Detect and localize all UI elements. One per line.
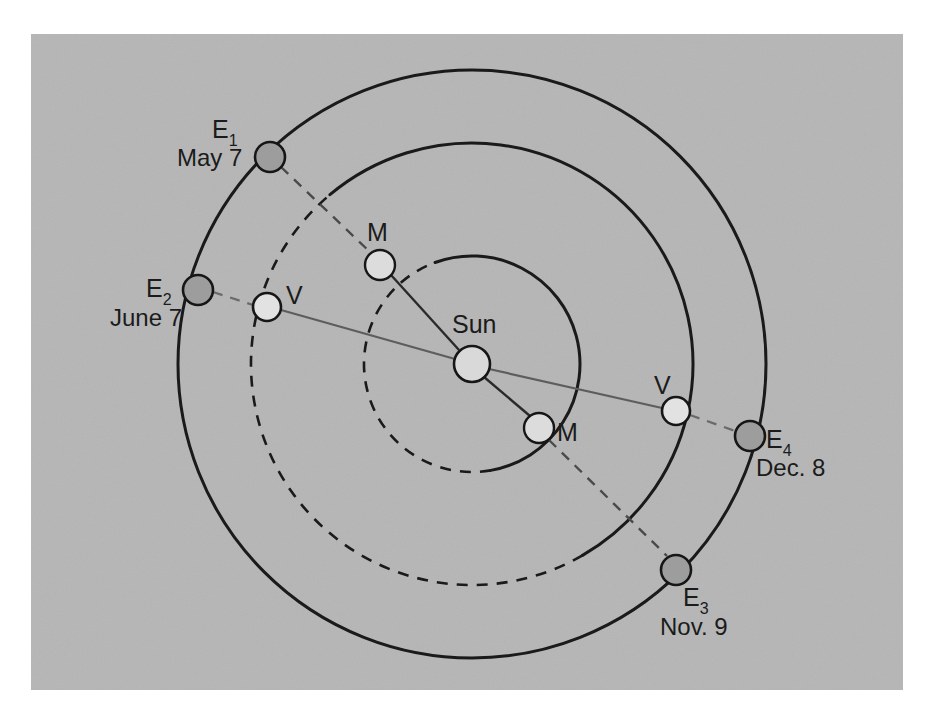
mercury-lower-label: M bbox=[557, 418, 578, 446]
venus-right-circle bbox=[662, 397, 690, 425]
sun-label: Sun bbox=[452, 310, 496, 338]
venus-left-label: V bbox=[286, 281, 303, 309]
earth-position-e1-circle bbox=[255, 142, 285, 172]
earth-e2-date: June 7 bbox=[110, 304, 182, 331]
earth-e1-label-letter: E bbox=[212, 115, 229, 143]
earth-e2-label-letter: E bbox=[146, 274, 163, 302]
mercury-upper-circle bbox=[365, 250, 395, 280]
earth-e4-date: Dec. 8 bbox=[756, 454, 825, 481]
earth-e1-date: May 7 bbox=[177, 144, 242, 171]
earth-position-e2-circle bbox=[183, 275, 213, 305]
earth-e4-label-letter: E bbox=[766, 425, 783, 453]
mercury-lower-circle bbox=[524, 413, 554, 443]
venus-left-circle bbox=[253, 293, 281, 321]
earth-e3-date: Nov. 9 bbox=[660, 613, 728, 640]
orbit-diagram: Sun M M V V E1 May 7 E2 bbox=[0, 0, 929, 716]
mercury-upper-label: M bbox=[367, 218, 388, 246]
earth-position-e3-circle bbox=[661, 555, 691, 585]
sun-circle bbox=[454, 346, 490, 382]
earth-position-e4-circle bbox=[735, 421, 765, 451]
venus-right-label: V bbox=[654, 371, 671, 399]
figure-root: Sun M M V V E1 May 7 E2 bbox=[0, 0, 929, 716]
earth-e3-label-letter: E bbox=[683, 583, 700, 611]
